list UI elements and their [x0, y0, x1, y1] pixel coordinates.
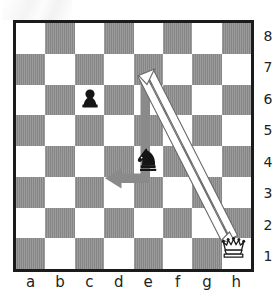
board-square-g4[interactable]: [192, 146, 221, 177]
chess-piece-white-queen-h1[interactable]: [219, 232, 248, 263]
chess-pawn-icon: [78, 87, 102, 113]
board-square-g6[interactable]: [192, 85, 221, 116]
rank-label-8: 8: [258, 20, 278, 52]
board-square-c2[interactable]: [75, 208, 104, 239]
board-square-d1[interactable]: [104, 238, 133, 269]
rank-label-1: 1: [258, 241, 278, 273]
chess-diagram-page: 87654321 abcdefgh: [0, 0, 280, 302]
board-square-f2[interactable]: [163, 208, 192, 239]
board-square-e2[interactable]: [134, 208, 163, 239]
board-square-b8[interactable]: [45, 23, 74, 54]
file-labels: abcdefgh: [16, 274, 251, 298]
board-square-g1[interactable]: [192, 238, 221, 269]
rank-label-3: 3: [258, 178, 278, 210]
board-square-c3[interactable]: [75, 177, 104, 208]
board-square-f6[interactable]: [163, 85, 192, 116]
board-square-e7[interactable]: [134, 54, 163, 85]
board-square-b6[interactable]: [45, 85, 74, 116]
board-square-h7[interactable]: [222, 54, 251, 85]
rank-label-6: 6: [258, 83, 278, 115]
board-square-h3[interactable]: [222, 177, 251, 208]
board-square-a3[interactable]: [16, 177, 45, 208]
rank-label-7: 7: [258, 52, 278, 84]
chess-piece-black-pawn-c6[interactable]: [75, 85, 104, 116]
chess-knight-icon: [135, 147, 161, 175]
board-square-e5[interactable]: [134, 115, 163, 146]
board-square-f3[interactable]: [163, 177, 192, 208]
file-label-b: b: [45, 274, 74, 298]
board-square-c4[interactable]: [75, 146, 104, 177]
board-square-d4[interactable]: [104, 146, 133, 177]
board-square-c8[interactable]: [75, 23, 104, 54]
rank-label-4: 4: [258, 146, 278, 178]
board-square-f7[interactable]: [163, 54, 192, 85]
file-label-g: g: [192, 274, 221, 298]
board-square-e6[interactable]: [134, 85, 163, 116]
board-square-d5[interactable]: [104, 115, 133, 146]
board-square-d2[interactable]: [104, 208, 133, 239]
file-label-e: e: [134, 274, 163, 298]
board-square-e8[interactable]: [134, 23, 163, 54]
board-square-g2[interactable]: [192, 208, 221, 239]
board-square-d6[interactable]: [104, 85, 133, 116]
board-square-e3[interactable]: [134, 177, 163, 208]
board-square-b7[interactable]: [45, 54, 74, 85]
file-label-c: c: [75, 274, 104, 298]
board-square-b4[interactable]: [45, 146, 74, 177]
board-square-g5[interactable]: [192, 115, 221, 146]
board-square-g3[interactable]: [192, 177, 221, 208]
rank-labels: 87654321: [258, 20, 278, 272]
board-square-h8[interactable]: [222, 23, 251, 54]
file-label-h: h: [222, 274, 251, 298]
board-square-a5[interactable]: [16, 115, 45, 146]
board-square-h4[interactable]: [222, 146, 251, 177]
board-square-d3[interactable]: [104, 177, 133, 208]
board-square-a8[interactable]: [16, 23, 45, 54]
board-square-a4[interactable]: [16, 146, 45, 177]
board-square-b3[interactable]: [45, 177, 74, 208]
board-square-f5[interactable]: [163, 115, 192, 146]
board-square-h5[interactable]: [222, 115, 251, 146]
board-square-f8[interactable]: [163, 23, 192, 54]
board-square-c7[interactable]: [75, 54, 104, 85]
board-square-b5[interactable]: [45, 115, 74, 146]
board-square-b1[interactable]: [45, 238, 74, 269]
scan-artifact: [2, 0, 72, 20]
chessboard[interactable]: [13, 20, 254, 272]
board-square-b2[interactable]: [45, 208, 74, 239]
board-square-c1[interactable]: [75, 238, 104, 269]
board-square-d7[interactable]: [104, 54, 133, 85]
board-square-g7[interactable]: [192, 54, 221, 85]
board-square-f1[interactable]: [163, 238, 192, 269]
chess-piece-black-knight-e4[interactable]: [134, 146, 163, 177]
file-label-a: a: [16, 274, 45, 298]
chess-queen-icon: [220, 233, 247, 261]
board-square-f4[interactable]: [163, 146, 192, 177]
board-square-d8[interactable]: [104, 23, 133, 54]
board-square-g8[interactable]: [192, 23, 221, 54]
board-square-a7[interactable]: [16, 54, 45, 85]
rank-label-2: 2: [258, 209, 278, 241]
board-square-a2[interactable]: [16, 208, 45, 239]
file-label-f: f: [163, 274, 192, 298]
rank-label-5: 5: [258, 115, 278, 147]
file-label-d: d: [104, 274, 133, 298]
board-square-e1[interactable]: [134, 238, 163, 269]
board-square-a1[interactable]: [16, 238, 45, 269]
board-square-h6[interactable]: [222, 85, 251, 116]
board-square-c5[interactable]: [75, 115, 104, 146]
board-square-a6[interactable]: [16, 85, 45, 116]
